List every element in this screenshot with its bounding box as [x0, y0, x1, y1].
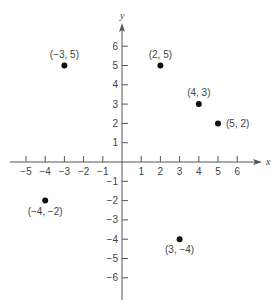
x-tick-label: 3: [177, 166, 183, 177]
data-point: [177, 236, 183, 242]
point-label: (4, 3): [187, 87, 210, 98]
x-tick-label: 5: [215, 166, 221, 177]
point-label: (5, 2): [226, 118, 249, 129]
y-tick-label: 2: [112, 118, 118, 129]
x-tick-label: −2: [78, 166, 90, 177]
y-tick-label: 5: [112, 60, 118, 71]
data-point: [215, 120, 221, 126]
x-tick-label: 1: [138, 166, 144, 177]
y-tick-label: 4: [112, 79, 118, 90]
y-tick-label: 1: [112, 137, 118, 148]
x-tick-label: 4: [196, 166, 202, 177]
y-tick-label: −5: [107, 253, 119, 264]
y-tick-label: −4: [107, 234, 119, 245]
x-tick-label: −4: [39, 166, 51, 177]
y-tick-label: 6: [112, 41, 118, 52]
coordinate-plane: xy −5−4−3−2−1123456654321−1−2−3−4−5−6 (−…: [0, 0, 277, 307]
y-tick-label: −2: [107, 195, 119, 206]
x-tick-label: 2: [158, 166, 164, 177]
point-label: (2, 5): [149, 49, 172, 60]
y-tick-label: −1: [107, 176, 119, 187]
data-point: [42, 198, 48, 204]
point-label: (−3, 5): [50, 49, 79, 60]
x-tick-label: −3: [59, 166, 71, 177]
y-axis-label: y: [119, 10, 125, 21]
point-label: (−4, −2): [28, 206, 63, 217]
y-tick-label: −6: [107, 272, 119, 283]
data-point: [61, 63, 67, 69]
x-tick-label: −5: [20, 166, 32, 177]
y-tick-label: 3: [112, 99, 118, 110]
data-points: (−3, 5)(2, 5)(4, 3)(5, 2)(−4, −2)(3, −4): [28, 49, 250, 256]
y-tick-label: −3: [107, 214, 119, 225]
data-point: [196, 101, 202, 107]
point-label: (3, −4): [165, 244, 194, 255]
x-tick-label: 6: [234, 166, 240, 177]
data-point: [157, 63, 163, 69]
x-axis-label: x: [265, 156, 271, 167]
